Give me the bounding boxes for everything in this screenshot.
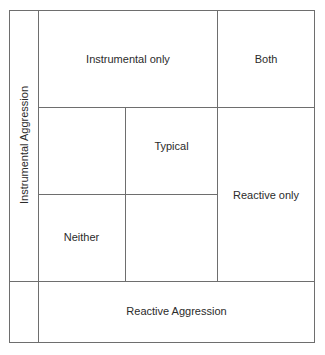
cell-reactive-only: Reactive only [217, 189, 315, 201]
border-top [9, 10, 315, 11]
grid-line-top-row [38, 107, 315, 108]
cell-both: Both [217, 53, 315, 65]
cell-neither: Neither [38, 231, 125, 243]
border-left [9, 10, 10, 343]
x-axis-label: Reactive Aggression [38, 305, 315, 317]
y-axis-label: Instrumental Aggression [18, 86, 30, 204]
cell-typical: Typical [125, 140, 218, 152]
grid-line-middle-row [38, 194, 218, 195]
cell-instrumental-only: Instrumental only [38, 53, 218, 65]
x-axis-separator [9, 281, 315, 282]
border-bottom [9, 342, 315, 343]
